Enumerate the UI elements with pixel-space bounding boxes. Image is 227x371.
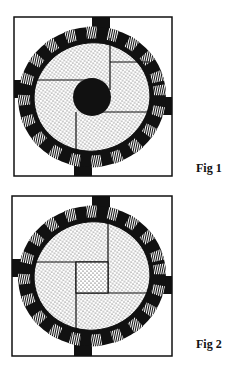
figure-1-caption: Fig 1	[196, 161, 222, 176]
figure-2-diagram	[0, 185, 227, 371]
center-disc	[73, 78, 111, 116]
figure-1-diagram	[0, 0, 227, 185]
figure-2-caption: Fig 2	[196, 337, 222, 352]
figure-1-artwork	[7, 15, 177, 179]
figure-2-artwork	[7, 194, 177, 358]
center-square	[76, 262, 108, 293]
